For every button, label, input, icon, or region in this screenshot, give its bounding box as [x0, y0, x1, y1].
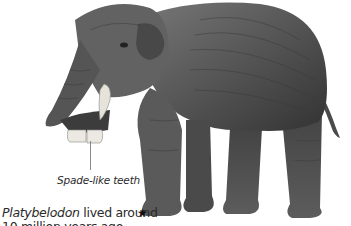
caption-line-1: Platybelodon lived around [2, 206, 158, 220]
teeth-leader-line [90, 141, 91, 170]
species-name: Platybelodon [2, 205, 80, 220]
star-icon: ★ [137, 206, 148, 220]
caption: Platybelodon lived around 10 million yea… [2, 206, 158, 226]
caption-line-2: 10 million years ago [2, 220, 158, 226]
platybelodon-illustration [0, 0, 351, 226]
teeth-label: Spade-like teeth [57, 174, 140, 186]
